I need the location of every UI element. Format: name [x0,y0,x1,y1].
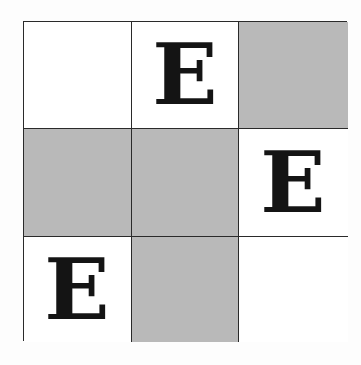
cell-letter: E [152,33,217,117]
grid-cell-r1-c1 [24,22,132,129]
grid-cell-r3-c3 [239,237,348,342]
letter-grid: E E E [23,21,347,341]
cell-letter: E [261,141,326,225]
grid-cell-r2-c2 [132,129,239,237]
grid-cell-r2-c1 [24,129,132,237]
grid-cell-r3-c1: E [24,237,132,342]
cell-letter: E [45,248,110,332]
grid-cell-r2-c3: E [239,129,348,237]
grid-cell-r1-c2: E [132,22,239,129]
grid-cell-r3-c2 [132,237,239,342]
grid-cell-r1-c3 [239,22,348,129]
